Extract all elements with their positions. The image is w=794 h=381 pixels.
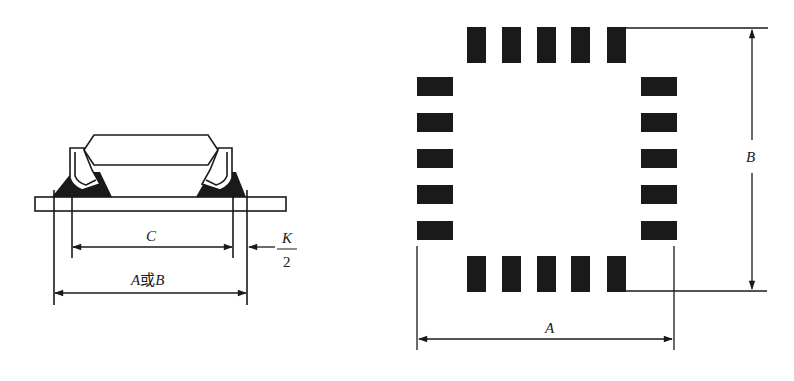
- label-k-denominator: 2: [283, 254, 291, 270]
- land-pattern: [417, 27, 677, 292]
- label-b: B: [746, 149, 755, 165]
- pad-bottom-4: [571, 256, 590, 292]
- pad-bottom-3: [537, 256, 556, 292]
- pad-right-5: [641, 221, 677, 240]
- pad-right-3: [641, 149, 677, 168]
- pad-bottom-1: [467, 256, 486, 292]
- chip-body: [84, 135, 218, 165]
- pad-top-1: [467, 27, 486, 63]
- figure: C A或B K 2: [0, 0, 794, 381]
- pad-left-4: [417, 185, 453, 204]
- label-a: A: [544, 320, 555, 336]
- pad-top-4: [571, 27, 590, 63]
- label-c: C: [146, 228, 157, 244]
- pad-left-2: [417, 113, 453, 132]
- pad-top-3: [537, 27, 556, 63]
- pad-bottom-5: [607, 256, 626, 292]
- label-a-or-b: A或B: [130, 272, 164, 288]
- pad-top-2: [502, 27, 521, 63]
- pad-bottom-2: [502, 256, 521, 292]
- pad-left-5: [417, 221, 453, 240]
- side-view: [35, 135, 297, 305]
- pad-right-1: [641, 77, 677, 96]
- pad-right-2: [641, 113, 677, 132]
- dimension-lines: [417, 28, 768, 350]
- label-k: K: [281, 230, 293, 246]
- pad-top-5: [607, 27, 626, 63]
- pad-left-3: [417, 149, 453, 168]
- pad-right-4: [641, 185, 677, 204]
- pad-left-1: [417, 77, 453, 96]
